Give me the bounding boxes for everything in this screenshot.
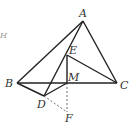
label-d: D (36, 98, 46, 111)
geometry-diagram: A B C D E M F H (0, 0, 138, 126)
label-a: A (78, 7, 87, 20)
label-e: E (68, 44, 77, 57)
segment-df (44, 96, 67, 112)
stray-label-h: H (0, 31, 8, 40)
label-c: C (120, 79, 129, 92)
label-f: F (64, 112, 73, 125)
label-m: M (67, 71, 80, 84)
label-b: B (4, 77, 13, 90)
segment-bd (17, 83, 44, 96)
